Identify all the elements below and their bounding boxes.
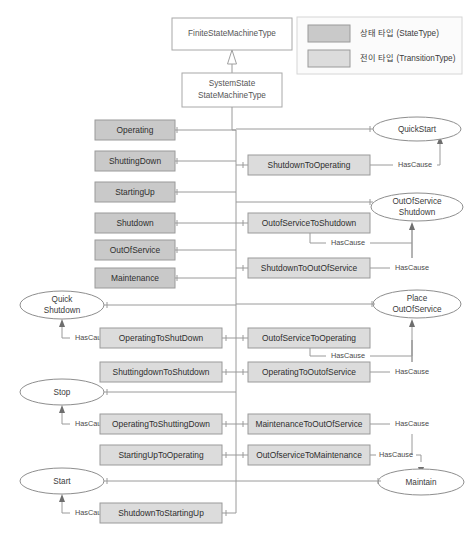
- legend-swatch-transition: [308, 50, 350, 67]
- state-label-maintenance: Maintenance: [111, 273, 159, 283]
- transition-label-outofservice-to-shutdown: OutofServiceToShutdown: [262, 218, 357, 228]
- cause-label-stop: Stop: [54, 388, 71, 397]
- cause-node-maintain[interactable]: Maintain: [236, 469, 464, 495]
- cause-label-outofservice-shutdown-line2: Shutdown: [399, 208, 436, 217]
- transition-node-startingup-to-operating[interactable]: StartingUpToOperating: [100, 445, 236, 465]
- relation-label-outofservice-to-operating: HasCause: [331, 351, 365, 360]
- transition-label-maintenance-to-outofservice: MaintenanceToOutOfService: [255, 419, 362, 429]
- transition-label-shuttingdown-to-shutdown: ShuttingdownToShutdown: [113, 367, 210, 377]
- transition-label-shutdown-to-outofservice: ShutdownToOutOfService: [261, 263, 358, 273]
- system-state-machine-type-node[interactable]: SystemState StateMachineType: [182, 73, 282, 107]
- relation-label-shutdown-to-operating: HasCause: [398, 160, 432, 169]
- transition-node-operating-to-shutdown[interactable]: OperatingToShutDown: [100, 328, 236, 348]
- relation-label-shutdown-to-outofservice: HasCause: [395, 263, 429, 272]
- relation-label-maintenance-to-outofservice: HasCause: [395, 419, 429, 428]
- system-state-machine-type-label-line1: SystemState: [209, 79, 256, 88]
- state-node-shutdown[interactable]: Shutdown: [95, 213, 236, 233]
- transition-node-outofservice-to-shutdown[interactable]: OutofServiceToShutdown HasCause: [236, 213, 412, 247]
- cause-node-place-outofservice[interactable]: Place OutOfService: [236, 290, 461, 318]
- state-label-outofservice: OutOfService: [110, 245, 161, 255]
- system-state-machine-type-box[interactable]: [182, 73, 282, 107]
- transition-node-outofservice-to-maintenance[interactable]: OutOfserviceToMaintenance HasCause: [236, 445, 424, 475]
- cause-label-quickstart: QuickStart: [398, 125, 437, 134]
- state-label-shutdown: Shutdown: [116, 218, 154, 228]
- transition-node-outofservice-to-operating[interactable]: OutofServiceToOperating HasCause: [236, 328, 412, 360]
- system-state-machine-type-label-line2: StateMachineType: [198, 91, 266, 100]
- cause-label-start: Start: [53, 477, 71, 486]
- state-node-shuttingdown[interactable]: ShuttingDown: [95, 151, 236, 171]
- inheritance-arrow-icon: [228, 50, 237, 73]
- transition-label-operating-to-shuttingdown: OperatingToShuttingDown: [112, 419, 210, 429]
- transition-nodes-left: OperatingToShutDown ShuttingdownToShutdo…: [100, 328, 236, 523]
- transition-label-operating-to-outofservice: OperatingToOutofService: [262, 367, 356, 377]
- state-label-operating: Operating: [117, 125, 154, 135]
- transition-node-shutdown-to-startingup[interactable]: ShutdownToStartingUp: [100, 490, 236, 523]
- state-node-outofservice[interactable]: OutOfService: [95, 240, 236, 260]
- state-machine-diagram: FiniteStateMachineType SystemState State…: [0, 0, 470, 538]
- relation-label-outofservice-to-maintenance: HasCause: [379, 450, 413, 459]
- legend-label-state: 상태 타입 (StateType): [360, 28, 439, 38]
- transition-label-shutdown-to-startingup: ShutdownToStartingUp: [118, 508, 204, 518]
- transition-node-shutdown-to-operating[interactable]: ShutdownToOperating HasCause: [236, 136, 443, 175]
- cause-label-quick-shutdown-line2: Shutdown: [44, 306, 81, 315]
- transition-node-shuttingdown-to-shutdown[interactable]: ShuttingdownToShutdown: [100, 362, 236, 382]
- transition-label-startingup-to-operating: StartingUpToOperating: [118, 450, 204, 460]
- state-node-maintenance[interactable]: Maintenance: [95, 268, 236, 288]
- legend: 상태 타입 (StateType) 전이 타입 (TransitionType): [297, 17, 462, 74]
- main-trunk-edges: [232, 107, 236, 490]
- transition-label-operating-to-shutdown: OperatingToShutDown: [119, 333, 204, 343]
- cause-node-quickstart[interactable]: QuickStart: [236, 117, 461, 141]
- transition-node-operating-to-shuttingdown[interactable]: OperatingToShuttingDown: [100, 414, 236, 434]
- cause-label-quick-shutdown-line1: Quick: [52, 295, 74, 304]
- state-label-startingup: StartingUp: [115, 187, 155, 197]
- cause-nodes-left: Quick Shutdown HasCause Stop HasCause: [20, 291, 236, 517]
- state-label-shuttingdown: ShuttingDown: [109, 156, 161, 166]
- cause-label-maintain: Maintain: [406, 478, 437, 487]
- cause-label-place-outofservice-line2: OutOfService: [392, 305, 442, 314]
- legend-label-transition: 전이 타입 (TransitionType): [360, 53, 456, 63]
- state-nodes: Operating ShuttingDown StartingUp Shutdo…: [95, 120, 236, 288]
- finite-state-machine-type-label: FiniteStateMachineType: [188, 29, 276, 38]
- relation-label-operating-to-outofservice: HasCause: [395, 367, 429, 376]
- state-node-startingup[interactable]: StartingUp: [95, 182, 236, 202]
- cause-label-place-outofservice-line1: Place: [407, 294, 428, 303]
- transition-label-shutdown-to-operating: ShutdownToOperating: [268, 160, 351, 170]
- state-node-operating[interactable]: Operating: [95, 120, 236, 140]
- legend-swatch-state: [308, 25, 350, 42]
- finite-state-machine-type-node[interactable]: FiniteStateMachineType: [172, 18, 292, 50]
- transition-nodes-lower-right: OutofServiceToOperating HasCause Operati…: [236, 319, 429, 475]
- transition-label-outofservice-to-maintenance: OutOfserviceToMaintenance: [256, 450, 362, 460]
- transition-label-outofservice-to-operating: OutofServiceToOperating: [262, 333, 356, 343]
- cause-label-outofservice-shutdown-line1: OutOfService: [392, 197, 442, 206]
- relation-label-outofservice-to-shutdown: HasCause: [331, 238, 365, 247]
